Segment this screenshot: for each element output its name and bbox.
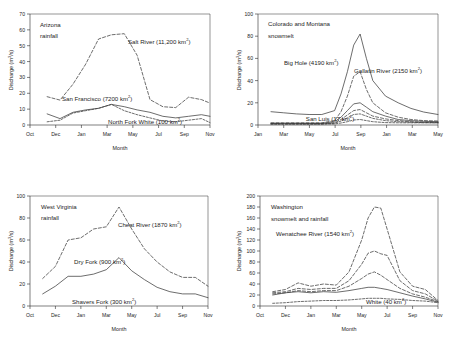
y-tick-b-5: 100	[245, 11, 254, 17]
chart-panel-west-virginia: 100 80 60 40 20 0 Oct Dec Jan Mar	[0, 178, 226, 355]
y-tick-c-5: 100	[17, 193, 26, 199]
series-c-cheat-river	[43, 207, 208, 286]
y-tick-a-5: 50	[19, 43, 25, 49]
y-tick-c-3: 60	[19, 237, 25, 243]
x-tick-b-1: Mar	[279, 131, 288, 137]
x-axis-title-c: Month	[112, 326, 127, 332]
y-tick-a-7: 70	[19, 11, 25, 17]
series-b-mid-2	[271, 110, 438, 124]
x-tick-d-1: Dec	[281, 312, 291, 318]
y-tick-d-5: 100	[247, 248, 256, 254]
series-label-d-white: White (40 km2)	[366, 297, 406, 305]
x-tick-b-7: May	[433, 131, 443, 137]
x-tick-b-4: Sep	[356, 131, 365, 137]
x-ticks-d: Oct Dec Jan Mar May Jul Sep Nov	[256, 306, 443, 318]
panel-title-a-line2: rainfall	[40, 32, 58, 39]
y-tick-d-9: 180	[247, 204, 256, 210]
y-tick-b-4: 80	[247, 33, 253, 39]
y-tick-d-7: 140	[247, 226, 256, 232]
panel-title-a-line1: Arizona	[40, 21, 61, 28]
y-tick-d-4: 80	[249, 259, 255, 265]
x-axis-title-b: Month	[341, 145, 356, 151]
x-tick-a-7: Nov	[205, 131, 215, 137]
series-label-a-san-francisco: San Francisco (7200 km2)	[62, 94, 132, 102]
y-tick-a-3: 30	[19, 74, 25, 80]
y-axis-title-c: Discharge (m3/s)	[7, 231, 14, 272]
x-ticks-a: Oct Dec Jan Mar May Jul Sep Nov	[26, 125, 215, 137]
panel-title-c-line2: rainfall	[41, 214, 59, 221]
panel-title-d-line1: Washington	[271, 203, 303, 210]
x-tick-b-2: May	[305, 131, 315, 137]
chart-panel-arizona: 70 60 50 40 30 20 10 0 Oct Dec Ja	[0, 0, 226, 177]
series-label-b-san-luis-visible: San Luis (17 km2)	[306, 114, 354, 122]
series-label-c-dry-fork: Dry Fork (900 km2)	[74, 257, 125, 265]
chart-svg-washington: 200 180 160 140 120 100 80 60 40 20 0	[226, 178, 452, 355]
x-tick-b-6: Mar	[408, 131, 417, 137]
y-tick-d-2: 40	[249, 281, 255, 287]
y-tick-d-0: 0	[252, 303, 255, 309]
hydrograph-figure: 70 60 50 40 30 20 10 0 Oct Dec Ja	[0, 0, 452, 355]
x-tick-d-6: Sep	[408, 312, 417, 318]
y-tick-c-2: 40	[19, 259, 25, 265]
y-tick-d-8: 160	[247, 215, 256, 221]
series-b-mid-3	[271, 114, 438, 124]
y-tick-a-0: 0	[22, 122, 25, 128]
x-tick-a-2: Jan	[77, 131, 85, 137]
x-tick-d-4: May	[357, 312, 367, 318]
series-b-gallatin-river	[271, 72, 438, 123]
x-tick-d-2: Jan	[307, 312, 315, 318]
series-label-a-salt-river: Salt River (11,200 km2)	[128, 37, 190, 45]
x-tick-b-3: Jul	[332, 131, 339, 137]
frame-box-c	[30, 196, 208, 306]
x-axis-title-d: Month	[342, 326, 357, 332]
x-ticks-c: Oct Dec Jan Mar May Jul Sep Nov	[26, 306, 213, 318]
series-d-series-2	[273, 251, 438, 301]
y-ticks-c: 100 80 60 40 20 0	[17, 193, 31, 309]
y-axis-title-a: Discharge (m3/s)	[7, 50, 14, 91]
series-label-c-shavers-fork: Shavers Fork (300 km2)	[72, 297, 136, 305]
series-label-d-wenatchee-river: Wenatchee River (1540 km2)	[276, 229, 354, 237]
y-tick-d-3: 60	[249, 270, 255, 276]
y-tick-a-2: 20	[19, 90, 25, 96]
y-tick-c-1: 20	[19, 281, 25, 287]
svg-text:Discharge (m3/s): Discharge (m3/s)	[235, 50, 242, 91]
x-tick-c-2: Jan	[77, 312, 85, 318]
x-tick-c-5: Jul	[154, 312, 161, 318]
x-tick-c-1: Dec	[51, 312, 61, 318]
x-tick-c-3: Mar	[102, 312, 111, 318]
y-tick-b-1: 20	[247, 100, 253, 106]
y-tick-d-1: 20	[249, 292, 255, 298]
y-tick-d-6: 120	[247, 237, 256, 243]
panel-title-b-line1: Colorado and Montana	[268, 20, 331, 27]
series-d-series-4	[273, 287, 438, 302]
x-tick-a-5: Jul	[155, 131, 162, 137]
y-tick-b-3: 60	[247, 55, 253, 61]
series-label-b-big-hole: Big Hole (4190 km2)	[284, 58, 338, 66]
y-ticks-d: 200 180 160 140 120 100 80 60 40 20 0	[247, 193, 261, 309]
y-axis-title-a-tail: /s)	[8, 50, 14, 56]
y-axis-title-b: Discharge (m3/s)	[235, 50, 242, 91]
series-d-white	[273, 298, 438, 303]
y-tick-d-10: 200	[247, 193, 256, 199]
svg-text:Discharge (m3/s): Discharge (m3/s)	[235, 231, 242, 272]
x-tick-a-1: Dec	[51, 131, 61, 137]
x-tick-a-4: May	[128, 131, 138, 137]
series-label-c-cheat-river: Cheat River (1870 km2)	[118, 220, 182, 228]
series-d-series-3	[273, 272, 438, 302]
x-tick-d-5: Jul	[384, 312, 391, 318]
y-ticks-b: 100 80 60 40 20 0	[245, 11, 259, 128]
x-tick-a-3: Mar	[103, 131, 112, 137]
x-tick-b-5: Jan	[382, 131, 390, 137]
x-tick-d-3: Mar	[332, 312, 341, 318]
x-tick-a-6: Sep	[180, 131, 189, 137]
x-tick-c-4: May	[127, 312, 137, 318]
svg-text:Discharge (m3/s): Discharge (m3/s)	[7, 50, 14, 91]
x-tick-a-0: Oct	[26, 131, 35, 137]
y-axis-title-d: Discharge (m3/s)	[235, 231, 242, 272]
x-ticks-b: Jan Mar May Jul Sep Jan Mar May	[254, 125, 443, 137]
chart-svg-west-virginia: 100 80 60 40 20 0 Oct Dec Jan Mar	[0, 178, 226, 355]
x-tick-d-0: Oct	[256, 312, 265, 318]
chart-panel-washington: 200 180 160 140 120 100 80 60 40 20 0	[226, 178, 452, 355]
series-b-big-hole	[271, 34, 438, 115]
x-tick-b-0: Jan	[254, 131, 262, 137]
